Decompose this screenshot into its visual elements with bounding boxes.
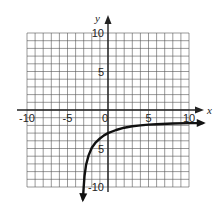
x-axis-label: x	[206, 104, 212, 116]
y-tick-label: 10	[92, 27, 104, 39]
y-axis-label: y	[94, 12, 100, 24]
curve-arrow-right-icon	[197, 119, 206, 127]
y-tick-label: 5	[98, 143, 104, 155]
curve-arrow-down-icon	[79, 193, 87, 202]
x-axis-arrow-icon	[195, 107, 204, 114]
x-tick-label: -10	[19, 112, 35, 124]
y-tick-label: -10	[88, 181, 104, 193]
y-tick-label: 5	[98, 66, 104, 78]
y-axis-arrow-icon	[105, 15, 112, 24]
x-tick-label: -5	[63, 112, 73, 124]
x-tick-label: 0	[102, 112, 108, 124]
chart-figure: x y -10-505101055-10	[0, 0, 219, 210]
x-tick-label: 5	[145, 112, 151, 124]
